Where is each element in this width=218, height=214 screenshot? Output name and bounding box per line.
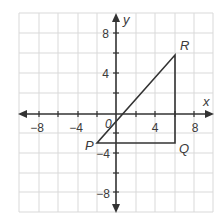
origin-label: 0 <box>105 117 112 131</box>
y-tick-label: −8 <box>96 187 110 201</box>
point-r-label: R <box>180 38 189 53</box>
coordinate-plane: y x 0 −8 −4 4 8 8 4 −4 −8 P Q R <box>0 0 218 214</box>
y-axis-arrow-up-icon <box>112 13 120 22</box>
point-q-label: Q <box>179 141 189 156</box>
y-axis-label: y <box>122 12 131 27</box>
x-tick-label: −4 <box>69 121 83 135</box>
x-tick-label: −8 <box>30 121 44 135</box>
y-tick-label: −4 <box>96 147 110 161</box>
y-tick-label: 8 <box>102 27 109 41</box>
x-axis-label: x <box>202 94 210 109</box>
y-tick-label: 4 <box>102 67 109 81</box>
x-tick-label: 4 <box>152 121 159 135</box>
point-p-label: P <box>85 138 94 153</box>
x-tick-label: 8 <box>192 121 199 135</box>
